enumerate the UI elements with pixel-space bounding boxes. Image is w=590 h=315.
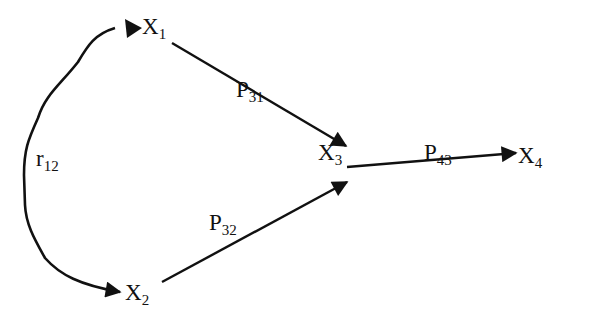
path-diagram: r12 P31 P32 P43 X1 X2 X3 X4 [0, 0, 590, 315]
node-x4: X4 [518, 143, 543, 171]
edge-label-r12: r12 [36, 146, 59, 174]
edge-label-p31: P31 [236, 77, 264, 105]
node-x2: X2 [125, 280, 149, 308]
edge-p31: P31 [172, 43, 346, 146]
edge-p32: P32 [162, 182, 347, 282]
edge-p43: P43 [347, 140, 516, 168]
arrow-x2-x3 [162, 182, 347, 282]
node-x3: X3 [318, 140, 342, 168]
edge-label-p32: P32 [209, 210, 237, 238]
node-x1: X1 [142, 14, 166, 42]
edge-label-p43: P43 [424, 140, 452, 168]
arrowhead-to-x1-icon [125, 19, 142, 38]
edge-r12: r12 [24, 19, 142, 292]
